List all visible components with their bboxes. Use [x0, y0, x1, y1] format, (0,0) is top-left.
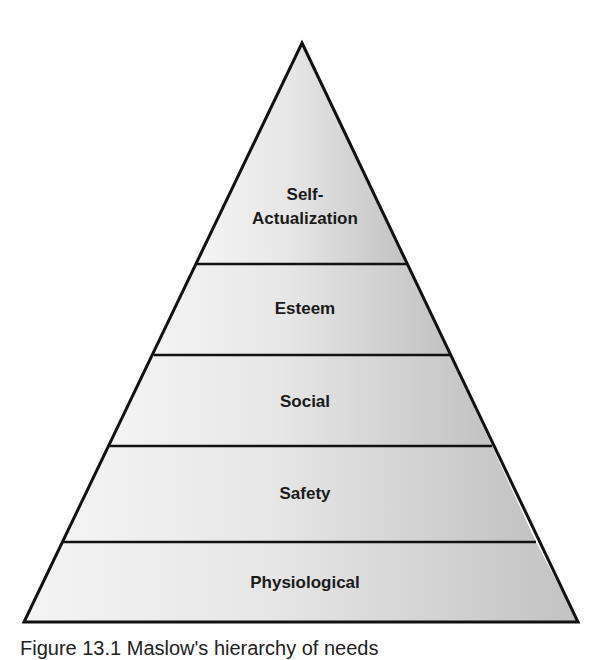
- label-social: Social: [0, 391, 610, 413]
- label-esteem: Esteem: [0, 298, 610, 320]
- label-self-actualization-line2: Actualization: [0, 208, 610, 230]
- label-self-actualization-line1: Self-: [0, 184, 610, 206]
- figure-caption: Figure 13.1 Maslow's hierarchy of needs: [20, 636, 378, 660]
- label-safety: Safety: [0, 483, 610, 505]
- label-physiological: Physiological: [0, 572, 610, 594]
- level-self-actualization: [197, 43, 407, 264]
